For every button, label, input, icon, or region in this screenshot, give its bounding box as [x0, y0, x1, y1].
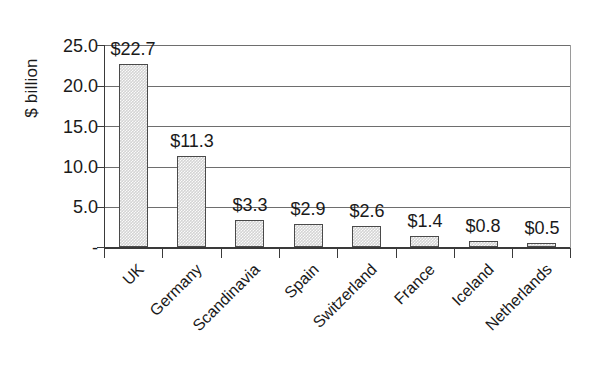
- bar-value-label-netherlands: $0.5: [502, 219, 582, 237]
- x-tick-mark-3: [279, 249, 280, 258]
- bar-switzerland[interactable]: [352, 226, 381, 247]
- x-tick-mark-2: [221, 249, 222, 258]
- y-tick-label-15: 15.0: [28, 118, 98, 136]
- bar-value-label-uk: $22.7: [93, 40, 173, 58]
- y-tick-label-25: 25.0: [28, 37, 98, 55]
- y-tick-label-5: 5.0: [28, 198, 98, 216]
- gridline-20: [104, 86, 570, 87]
- bar-germany[interactable]: [177, 156, 206, 247]
- bar-value-label-germany: $11.3: [152, 132, 232, 150]
- x-tick-mark-8: [570, 249, 571, 258]
- x-tick-mark-7: [512, 249, 513, 258]
- bar-uk[interactable]: [119, 64, 148, 247]
- gridline-10: [104, 167, 570, 168]
- gridline-25: [104, 45, 570, 46]
- x-tick-mark-6: [454, 249, 455, 258]
- bar-scandinavia[interactable]: [235, 220, 264, 247]
- bar-spain[interactable]: [294, 224, 323, 247]
- y-tick-label-0: -: [28, 239, 98, 257]
- y-tick-label-20: 20.0: [28, 77, 98, 95]
- gridline-15: [104, 126, 570, 127]
- plot-right-edge: [570, 45, 571, 248]
- y-tick-label-10: 10.0: [28, 158, 98, 176]
- y-axis-line: [104, 45, 105, 248]
- bar-netherlands[interactable]: [527, 243, 556, 247]
- x-tick-mark-4: [337, 249, 338, 258]
- x-tick-mark-1: [162, 249, 163, 258]
- bar-france[interactable]: [410, 236, 439, 247]
- x-label-wrap-netherlands: Netherlands: [389, 258, 549, 276]
- x-tick-mark-5: [396, 249, 397, 258]
- x-tick-mark-0: [104, 249, 105, 258]
- bar-iceland[interactable]: [469, 241, 498, 247]
- bar-chart: $ billion 25.0 20.0 15.0 10.0 5.0 - $22.…: [0, 0, 596, 374]
